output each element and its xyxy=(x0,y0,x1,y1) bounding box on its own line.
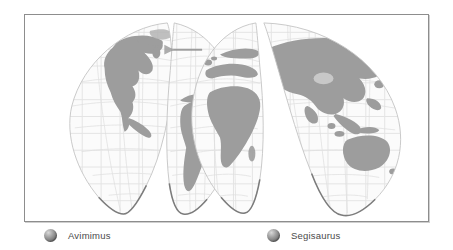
world-map-canvas xyxy=(25,15,428,221)
sphere-marker-icon xyxy=(267,229,280,242)
legend-entry-avimimus[interactable]: Avimimus xyxy=(44,224,111,246)
legend-entry-segisaurus[interactable]: Segisaurus xyxy=(267,224,341,246)
map-panel xyxy=(24,14,429,222)
world-map-svg xyxy=(25,15,428,221)
legend-label: Avimimus xyxy=(68,230,111,241)
legend-label: Segisaurus xyxy=(291,230,341,241)
map-legend: Avimimus Segisaurus xyxy=(24,224,429,246)
sphere-marker-icon xyxy=(44,229,57,242)
